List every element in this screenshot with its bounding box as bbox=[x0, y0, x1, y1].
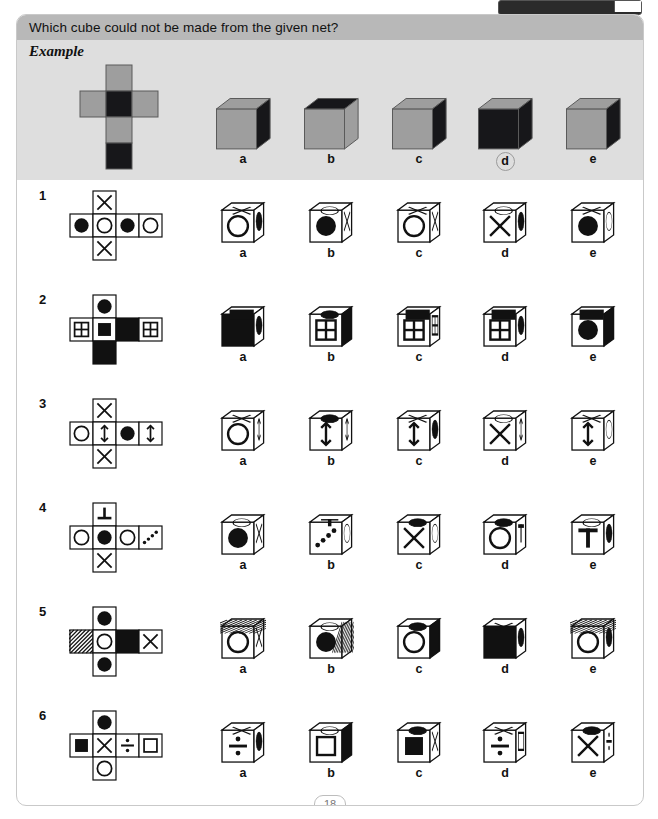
option-3-a[interactable]: a bbox=[213, 406, 273, 468]
option-3-d[interactable]: d bbox=[475, 406, 535, 468]
cube-option[interactable] bbox=[308, 721, 354, 764]
cube-option[interactable] bbox=[308, 201, 354, 244]
option-2-a[interactable]: a bbox=[213, 302, 273, 364]
cube-option[interactable] bbox=[396, 201, 442, 244]
cube-option[interactable] bbox=[308, 305, 354, 348]
cube-option[interactable] bbox=[308, 617, 354, 660]
cube-option[interactable] bbox=[396, 513, 442, 556]
option-2-b[interactable]: b bbox=[301, 302, 361, 364]
cube-face-top bbox=[580, 310, 604, 320]
cube-option[interactable] bbox=[396, 721, 442, 764]
example-cube[interactable] bbox=[391, 97, 448, 150]
option-2-e[interactable]: e bbox=[563, 302, 623, 364]
option-5-c[interactable]: c bbox=[389, 614, 449, 676]
cube-option[interactable] bbox=[570, 721, 616, 764]
option-6-d[interactable]: d bbox=[475, 718, 535, 780]
cube-option[interactable] bbox=[220, 721, 266, 764]
cube-option[interactable] bbox=[570, 409, 616, 452]
cube-option[interactable] bbox=[570, 513, 616, 556]
example-option-b[interactable]: b bbox=[301, 98, 361, 166]
question-number: 2 bbox=[39, 292, 46, 307]
cube-face-side bbox=[256, 732, 262, 750]
question-row-1: 1abcde bbox=[17, 180, 643, 284]
cube-option[interactable] bbox=[482, 513, 528, 556]
option-4-d[interactable]: d bbox=[475, 510, 535, 572]
option-3-c[interactable]: c bbox=[389, 406, 449, 468]
cube-face-side bbox=[606, 628, 612, 646]
net-face bbox=[93, 422, 116, 445]
net-face bbox=[139, 526, 162, 549]
option-6-e[interactable]: e bbox=[563, 718, 623, 780]
option-label: a bbox=[213, 350, 273, 364]
cube-option[interactable] bbox=[570, 617, 616, 660]
cube-option[interactable] bbox=[308, 513, 354, 556]
option-3-b[interactable]: b bbox=[301, 406, 361, 468]
option-label: d bbox=[475, 246, 535, 260]
cube-option[interactable] bbox=[482, 201, 528, 244]
cube-option[interactable] bbox=[482, 721, 528, 764]
option-5-b[interactable]: b bbox=[301, 614, 361, 676]
example-cube[interactable] bbox=[303, 97, 360, 150]
net-face bbox=[93, 503, 116, 526]
option-1-c[interactable]: c bbox=[389, 198, 449, 260]
cube-option[interactable] bbox=[482, 409, 528, 452]
cube-option[interactable] bbox=[482, 305, 528, 348]
cube-face-front bbox=[316, 632, 336, 652]
cube-option[interactable] bbox=[220, 617, 266, 660]
option-2-d[interactable]: d bbox=[475, 302, 535, 364]
cube-option[interactable] bbox=[220, 201, 266, 244]
cube-option[interactable] bbox=[220, 513, 266, 556]
option-4-a[interactable]: a bbox=[213, 510, 273, 572]
net-face bbox=[70, 422, 93, 445]
net-wrap bbox=[69, 502, 163, 573]
option-1-d[interactable]: d bbox=[475, 198, 535, 260]
example-option-d[interactable]: d bbox=[475, 98, 535, 171]
question-number: 5 bbox=[39, 604, 46, 619]
cube-face-side bbox=[432, 420, 438, 438]
cube-option[interactable] bbox=[570, 201, 616, 244]
cube-option[interactable] bbox=[308, 409, 354, 452]
cube-face-front bbox=[316, 216, 336, 236]
option-5-d[interactable]: d bbox=[475, 614, 535, 676]
option-5-e[interactable]: e bbox=[563, 614, 623, 676]
question-row-3: 3abcde bbox=[17, 388, 643, 492]
cube-option[interactable] bbox=[482, 617, 528, 660]
option-6-b[interactable]: b bbox=[301, 718, 361, 780]
example-option-e[interactable]: e bbox=[563, 98, 623, 166]
example-option-c[interactable]: c bbox=[389, 98, 449, 166]
example-net-wrap bbox=[79, 64, 159, 170]
cube-option[interactable] bbox=[396, 617, 442, 660]
example-option-a[interactable]: a bbox=[213, 98, 273, 166]
option-4-b[interactable]: b bbox=[301, 510, 361, 572]
option-label: d bbox=[475, 454, 535, 468]
example-net-face bbox=[132, 91, 158, 117]
cube-option[interactable] bbox=[396, 305, 442, 348]
example-cube[interactable] bbox=[215, 97, 272, 150]
option-6-c[interactable]: c bbox=[389, 718, 449, 780]
option-2-c[interactable]: c bbox=[389, 302, 449, 364]
net-face bbox=[139, 318, 162, 341]
net-face bbox=[93, 318, 116, 341]
example-cube[interactable] bbox=[565, 97, 622, 150]
net-diagram bbox=[69, 398, 163, 469]
cube-option[interactable] bbox=[396, 409, 442, 452]
cube-option[interactable] bbox=[220, 305, 266, 348]
net-diagram bbox=[69, 710, 163, 781]
option-1-a[interactable]: a bbox=[213, 198, 273, 260]
cube-option[interactable] bbox=[570, 305, 616, 348]
net-face bbox=[93, 734, 116, 757]
net-face bbox=[93, 237, 116, 260]
option-5-a[interactable]: a bbox=[213, 614, 273, 676]
cube-face-top bbox=[583, 727, 600, 735]
option-1-e[interactable]: e bbox=[563, 198, 623, 260]
example-cube[interactable] bbox=[477, 97, 534, 150]
net-face bbox=[116, 318, 139, 341]
option-4-e[interactable]: e bbox=[563, 510, 623, 572]
example-net-face bbox=[106, 143, 132, 169]
option-4-c[interactable]: c bbox=[389, 510, 449, 572]
option-6-a[interactable]: a bbox=[213, 718, 273, 780]
cube-option[interactable] bbox=[220, 409, 266, 452]
cube-face-top bbox=[409, 623, 426, 631]
option-3-e[interactable]: e bbox=[563, 406, 623, 468]
option-1-b[interactable]: b bbox=[301, 198, 361, 260]
